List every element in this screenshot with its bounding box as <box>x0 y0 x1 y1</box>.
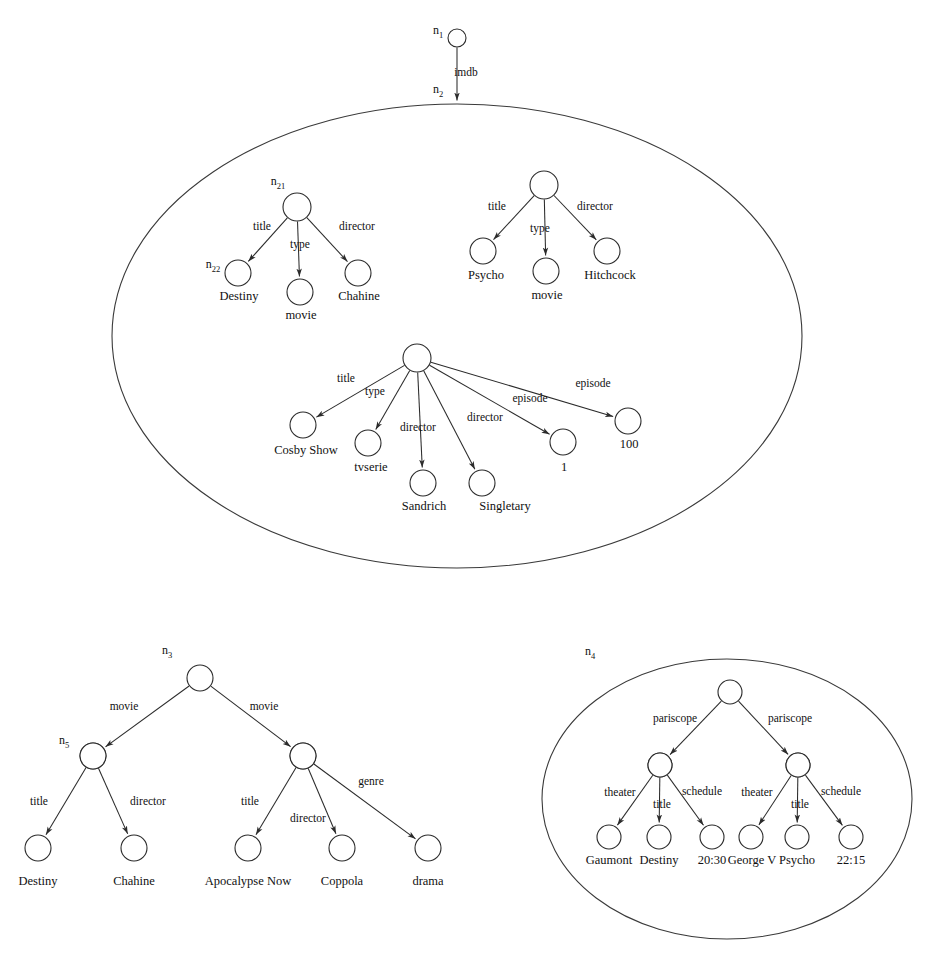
edge-label-director: director <box>577 200 613 212</box>
edge-label-director: director <box>400 421 436 433</box>
edge-pariscope_root_tree-0 <box>670 701 721 755</box>
n4-label: n4 <box>585 644 596 661</box>
node-pariscope_right_tree-child-2[interactable] <box>839 825 863 849</box>
node-n5_tree-child-1[interactable] <box>121 835 147 861</box>
edge-label-pariscope: pariscope <box>768 712 812 725</box>
edge-label-schedule: schedule <box>821 785 861 797</box>
node-n5_tree-root[interactable] <box>80 743 106 769</box>
figure-root: imdbtitleDestinytypemoviedirectorChahine… <box>0 0 949 973</box>
edge-cosby_tree-5 <box>431 362 613 416</box>
edge-label-theater: theater <box>741 786 772 798</box>
node-psycho_tree-root[interactable] <box>530 171 558 199</box>
node-pariscope_right_tree-child-0[interactable] <box>739 825 763 849</box>
node-destiny_tree-child-1[interactable] <box>287 279 313 305</box>
leaf-label-movie: movie <box>531 288 563 302</box>
leaf-label-sandrich: Sandrich <box>402 499 447 513</box>
node-psycho_tree-child-1[interactable] <box>533 258 559 284</box>
leaf-label-psycho: Psycho <box>779 853 815 867</box>
n1-label: n1 <box>433 23 443 40</box>
edge-label-director: director <box>290 812 326 824</box>
edge-label-episode: episode <box>575 377 610 390</box>
node-psycho_tree-child-0[interactable] <box>470 238 496 264</box>
leaf-label-tvserie: tvserie <box>354 460 388 474</box>
node-pariscope_left_tree-child-1[interactable] <box>647 825 671 849</box>
node-n5_tree-child-0[interactable] <box>25 835 51 861</box>
leaf-label-gaumont: Gaumont <box>586 853 633 867</box>
leaf-label-destiny: Destiny <box>640 853 680 867</box>
edge-label-theater: theater <box>604 786 635 798</box>
leaf-label-movie: movie <box>285 308 317 322</box>
node-psycho_tree-child-2[interactable] <box>594 238 620 264</box>
edge-pariscope_right_tree-0 <box>759 775 791 824</box>
node-cosby_tree-child-1[interactable] <box>355 430 381 456</box>
node-apocalypse_tree-child-1[interactable] <box>329 835 355 861</box>
edge-label-title: title <box>488 200 506 212</box>
n22-label: n22 <box>206 257 221 274</box>
leaf-label-1: 1 <box>561 460 567 474</box>
edge-pariscope_right_tree-2 <box>805 775 842 825</box>
edge-label-schedule: schedule <box>682 785 722 797</box>
node-pariscope_left_tree-child-2[interactable] <box>700 825 724 849</box>
edge-pariscope_root_tree-1 <box>739 701 789 754</box>
imdb-region <box>112 104 802 568</box>
leaf-label-apocalypse-now: Apocalypse Now <box>205 874 291 888</box>
node-n3_tree-root[interactable] <box>187 665 213 691</box>
node-apocalypse_tree-child-0[interactable] <box>235 835 261 861</box>
node-destiny_tree-child-2[interactable] <box>345 260 371 286</box>
node-apocalypse_tree-root[interactable] <box>290 743 316 769</box>
edge-label-imdb: imdb <box>454 66 478 78</box>
labels-layer: imdbtitleDestinytypemoviedirectorChahine… <box>19 23 866 888</box>
edge-label-movie: movie <box>110 700 139 712</box>
node-pariscope_right_tree-child-1[interactable] <box>785 825 809 849</box>
node-pariscope_left_tree-child-0[interactable] <box>597 825 621 849</box>
edge-pariscope_left_tree-0 <box>617 775 652 825</box>
edge-n5_tree-1 <box>98 768 127 834</box>
edge-label-title: title <box>253 220 271 232</box>
edge-n5_tree-0 <box>46 768 86 835</box>
n5-label: n5 <box>59 733 69 750</box>
edge-label-director: director <box>339 220 375 232</box>
edge-label-title: title <box>241 795 259 807</box>
edge-label-title: title <box>791 798 809 810</box>
node-cosby_tree-child-0[interactable] <box>290 412 316 438</box>
leaf-label-drama: drama <box>412 874 444 888</box>
node-cosby_tree-child-3[interactable] <box>469 470 495 496</box>
node-pariscope_right_tree-root[interactable] <box>786 753 810 777</box>
leaf-label-george-v: George V <box>728 853 777 867</box>
leaf-label-20:30: 20:30 <box>698 853 726 867</box>
node-destiny_tree-root[interactable] <box>283 193 311 221</box>
edge-n3_tree-0 <box>106 686 190 747</box>
leaf-label-cosby-show: Cosby Show <box>274 443 338 457</box>
edge-label-type: type <box>290 238 310 251</box>
edge-cosby_tree-2 <box>418 372 423 467</box>
edge-pariscope_left_tree-2 <box>667 775 703 825</box>
n3-label: n3 <box>162 643 172 660</box>
leaf-label-psycho: Psycho <box>468 268 504 282</box>
n21-label: n21 <box>271 174 286 191</box>
node-cosby_tree-child-4[interactable] <box>550 429 576 455</box>
leaf-label-22:15: 22:15 <box>837 853 865 867</box>
graph-canvas: imdbtitleDestinytypemoviedirectorChahine… <box>0 0 949 973</box>
edge-label-director: director <box>467 411 503 423</box>
edges-layer <box>46 48 842 839</box>
nodes-layer <box>25 29 863 861</box>
edge-n3_tree-1 <box>211 686 291 746</box>
node-destiny_tree-child-0[interactable] <box>225 260 251 286</box>
leaf-label-destiny: Destiny <box>220 289 260 303</box>
n2-label: n2 <box>433 82 443 99</box>
node-pariscope_root_tree-root[interactable] <box>718 680 742 704</box>
node-apocalypse_tree-child-2[interactable] <box>415 835 441 861</box>
node-cosby_tree-child-5[interactable] <box>615 408 641 434</box>
edge-label-genre: genre <box>358 775 384 788</box>
leaf-label-chahine: Chahine <box>113 874 155 888</box>
leaf-label-destiny: Destiny <box>19 874 59 888</box>
edge-label-pariscope: pariscope <box>653 712 697 725</box>
edge-label-episode: episode <box>512 392 547 405</box>
node-n1[interactable] <box>448 29 466 47</box>
node-pariscope_left_tree-root[interactable] <box>648 753 672 777</box>
node-cosby_tree-child-2[interactable] <box>410 470 436 496</box>
edge-label-title: title <box>337 372 355 384</box>
edge-apocalypse_tree-0 <box>256 768 296 835</box>
edge-label-movie: movie <box>250 700 279 712</box>
node-cosby_tree-root[interactable] <box>403 344 431 372</box>
